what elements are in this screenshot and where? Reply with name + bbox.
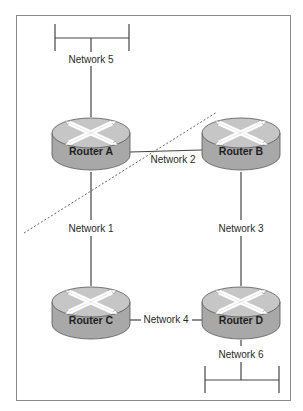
link-network-2 xyxy=(130,150,202,152)
router-b-label: Router B xyxy=(219,145,264,157)
router-icon xyxy=(52,118,130,170)
router-d-label: Router D xyxy=(219,314,264,326)
network-1-label: Network 1 xyxy=(68,223,113,234)
network-2-label: Network 2 xyxy=(150,154,195,165)
network-diagram: Network 5 Network 2 Network 1 Network 3 … xyxy=(0,0,303,411)
network-6-label: Network 6 xyxy=(218,349,263,360)
router-c-label: Router C xyxy=(69,314,114,326)
router-d: Router D xyxy=(202,287,280,339)
router-icon xyxy=(202,287,280,339)
network-4-label: Network 4 xyxy=(143,314,188,325)
router-a-label: Router A xyxy=(69,145,113,157)
network-3-label: Network 3 xyxy=(218,223,263,234)
router-icon xyxy=(202,118,280,170)
router-icon xyxy=(52,287,130,339)
lan-segment-network-6 xyxy=(205,340,279,393)
router-b: Router B xyxy=(202,118,280,170)
router-c: Router C xyxy=(52,287,130,339)
router-a: Router A xyxy=(52,118,130,170)
lan-segment-network-5 xyxy=(55,24,129,117)
diagram-frame xyxy=(17,16,291,401)
network-5-label: Network 5 xyxy=(68,54,113,65)
